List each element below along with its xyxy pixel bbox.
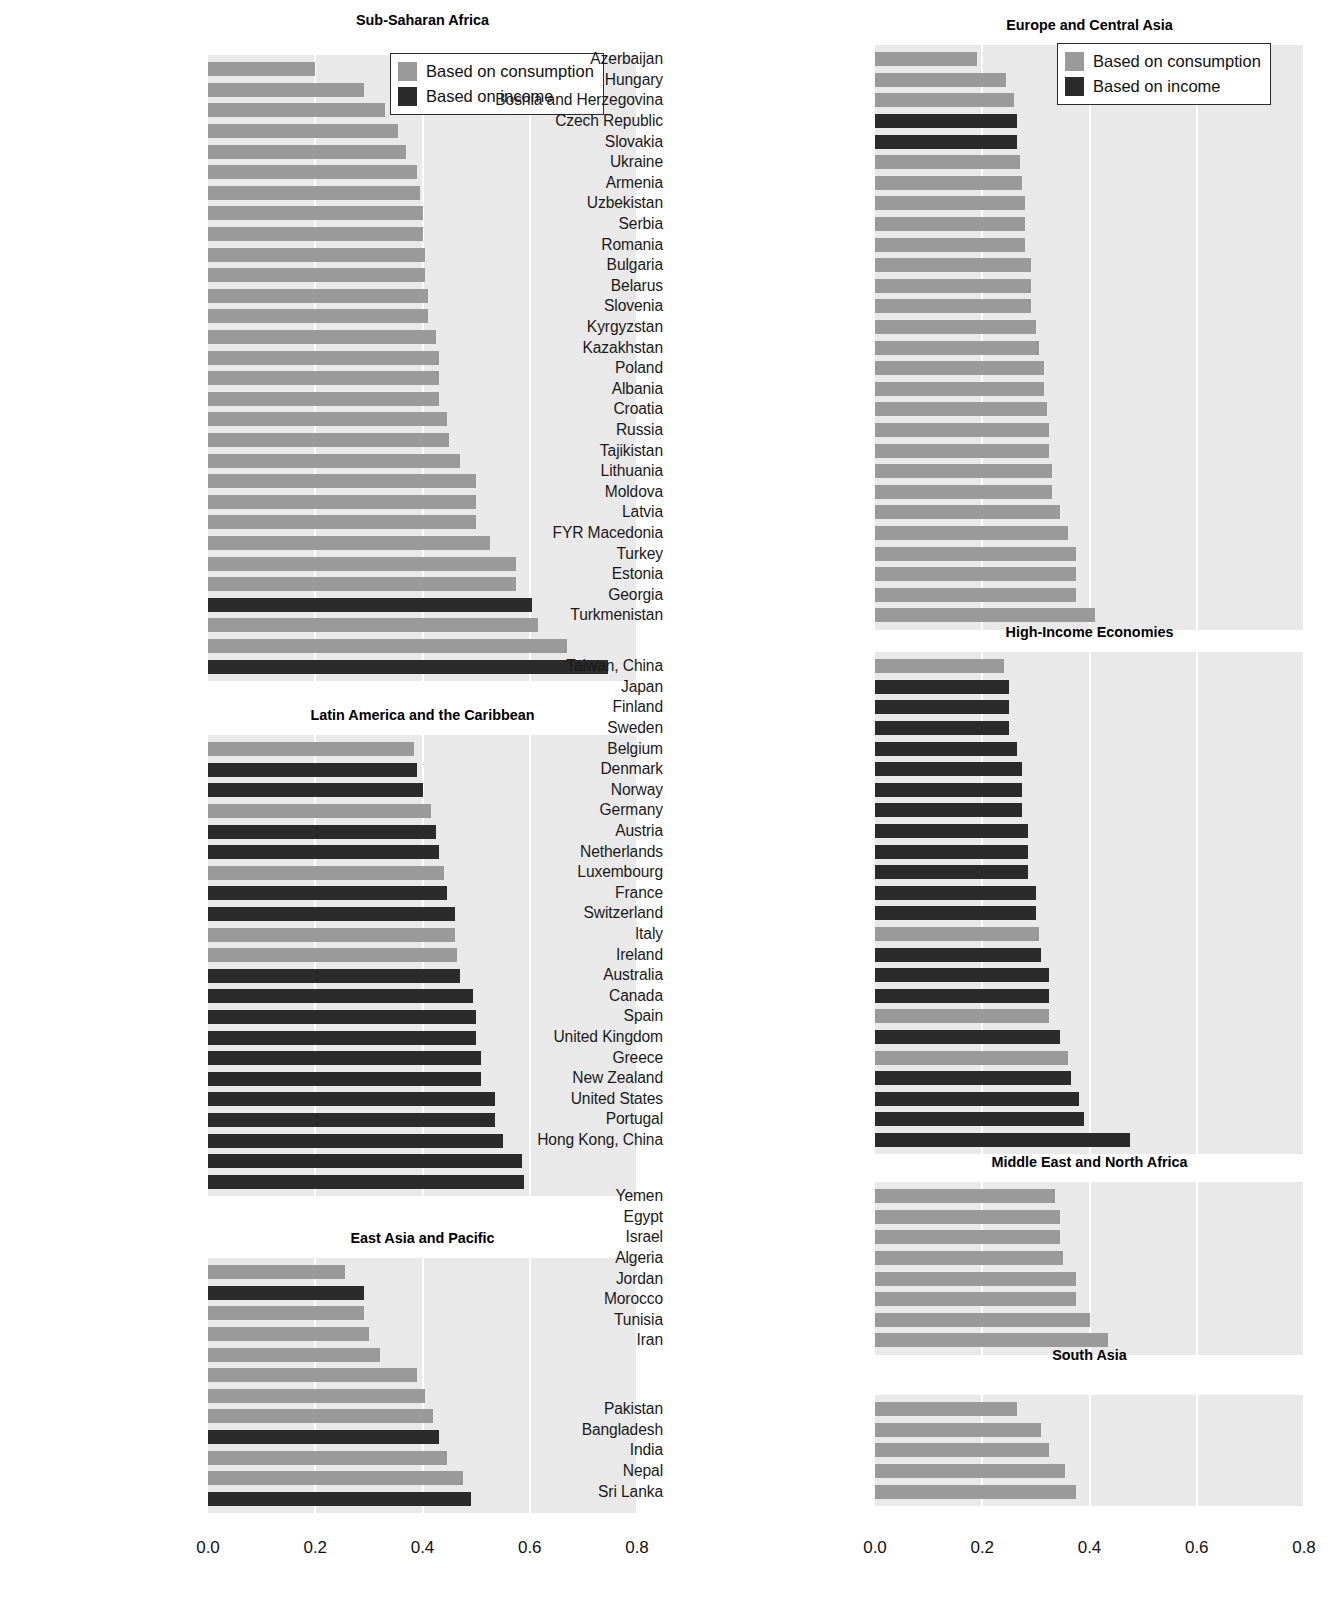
bar-row: Central African Republic <box>0 615 667 636</box>
panel-europe-and-central-asia: AzerbaijanHungaryBosnia and HerzegovinaC… <box>667 45 1334 630</box>
bar-row: Ireland <box>667 944 1334 965</box>
panel-title: South Asia <box>875 1347 1304 1363</box>
bar-track <box>875 1088 1304 1109</box>
category-label: Poland <box>615 359 663 377</box>
bar-track <box>208 1007 637 1028</box>
bar-track <box>875 234 1304 255</box>
bar-row: Norway <box>667 780 1334 801</box>
x-axis-tick: 0.2 <box>970 1538 994 1558</box>
panel-title: Europe and Central Asia <box>875 17 1304 33</box>
bar-consumption <box>875 1051 1068 1065</box>
category-label: Ireland <box>616 946 663 964</box>
bar-track <box>875 605 1304 626</box>
bar-income <box>875 762 1022 776</box>
category-label: Switzerland <box>583 904 663 922</box>
bar-track <box>875 965 1304 986</box>
bar-track <box>208 1283 637 1304</box>
category-label: Bangladesh <box>582 1421 663 1439</box>
category-label: Morocco <box>604 1290 663 1308</box>
bar-row: Switzerland <box>667 903 1334 924</box>
bar-consumption <box>208 1327 369 1341</box>
bar-consumption <box>875 1464 1065 1478</box>
category-label: Sri Lanka <box>598 1483 663 1501</box>
bar-track <box>208 553 637 574</box>
bar-track <box>875 193 1304 214</box>
bar-consumption <box>208 928 455 942</box>
bar-track <box>208 286 637 307</box>
bar-track <box>208 636 637 657</box>
bar-track <box>208 224 637 245</box>
bar-income <box>875 700 1009 714</box>
bar-row: Pakistan <box>667 1399 1334 1420</box>
bar-track <box>208 471 637 492</box>
category-label: Austria <box>615 822 663 840</box>
category-label: Portugal <box>606 1110 663 1128</box>
bar-track <box>875 255 1304 276</box>
bar-income <box>875 721 1009 735</box>
x-axis: 0.00.20.40.60.8 <box>875 1538 1304 1564</box>
bar-row: Russia <box>667 420 1334 441</box>
bar-consumption <box>875 73 1006 87</box>
bar-track <box>208 1324 637 1345</box>
bar-row: Cambodia <box>0 1386 667 1407</box>
bar-row: Colombia <box>0 1110 667 1131</box>
bar-consumption <box>208 186 420 200</box>
bar-row: India <box>667 1440 1334 1461</box>
bar-consumption <box>208 83 364 97</box>
category-label: Japan <box>621 678 663 696</box>
bar-track <box>875 1268 1304 1289</box>
bar-consumption <box>208 206 423 220</box>
x-axis-tick: 0.6 <box>1185 1538 1209 1558</box>
bar-row: Belgium <box>667 738 1334 759</box>
bar-track <box>875 152 1304 173</box>
bar-track <box>875 841 1304 862</box>
bar-row: Croatia <box>667 399 1334 420</box>
bar-consumption <box>208 1451 447 1465</box>
bar-income <box>875 803 1022 817</box>
chart-legend: Based on consumptionBased on income <box>1057 43 1271 105</box>
bar-row: Israel <box>667 1227 1334 1248</box>
bar-rows: MauritiusEthiopiaNigerTanzaniaBeninMauri… <box>0 55 667 677</box>
bar-track <box>875 738 1304 759</box>
bar-row: Turkey <box>667 543 1334 564</box>
bar-consumption <box>208 103 385 117</box>
bar-consumption <box>208 742 414 756</box>
bar-income <box>208 1010 476 1024</box>
bar-row: Mozambique <box>0 244 667 265</box>
bar-consumption <box>208 454 460 468</box>
category-label: Taiwan, China <box>566 657 663 675</box>
bar-row: Singapore <box>0 1427 667 1448</box>
bar-row: Jamaica <box>0 801 667 822</box>
bar-track <box>875 780 1304 801</box>
bar-consumption <box>875 588 1076 602</box>
bar-track <box>208 1303 637 1324</box>
bar-consumption <box>208 412 447 426</box>
bar-track <box>208 1468 637 1489</box>
category-label: Croatia <box>613 400 663 418</box>
bar-consumption <box>208 289 428 303</box>
category-label: Netherlands <box>580 843 663 861</box>
bar-track <box>875 420 1304 441</box>
legend-item-consumption: Based on consumption <box>398 59 594 84</box>
bar-income <box>208 886 447 900</box>
bar-consumption <box>875 176 1022 190</box>
legend-label: Based on income <box>1093 77 1221 96</box>
bar-row: Bulgaria <box>667 255 1334 276</box>
bar-consumption <box>875 547 1076 561</box>
bar-income <box>875 1030 1060 1044</box>
bar-track <box>208 924 637 945</box>
bar-row: Portugal <box>667 1109 1334 1130</box>
bar-row: France <box>667 883 1334 904</box>
bar-row: Madagascar <box>0 450 667 471</box>
category-label: FYR Macedonia <box>552 524 663 542</box>
category-label: Slovenia <box>604 297 663 315</box>
category-label: Finland <box>613 698 663 716</box>
category-label: Tajikistan <box>600 442 663 460</box>
category-label: Australia <box>603 966 663 984</box>
bar-row: Burkina Faso <box>0 306 667 327</box>
x-axis-tick: 0.0 <box>863 1538 887 1558</box>
bar-row: Finland <box>667 697 1334 718</box>
bar-consumption <box>875 1009 1049 1023</box>
bar-consumption <box>875 526 1068 540</box>
bar-consumption <box>208 577 516 591</box>
